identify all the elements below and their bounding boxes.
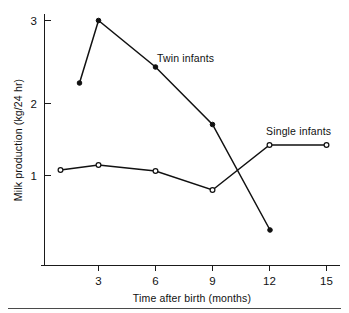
single-infants-line (61, 145, 327, 190)
x-tick-label-12: 12 (263, 275, 276, 287)
single-point-3mo (96, 163, 101, 168)
y-tick-label-2: 2 (31, 98, 37, 110)
y-axis (45, 14, 52, 265)
series-twin-infants: Twin infants (77, 18, 272, 232)
x-axis (41, 266, 340, 272)
y-axis-title: Milk production (kg/24 hr) (12, 79, 24, 201)
twin-point-3mo (96, 18, 101, 23)
twin-point-2mo (77, 81, 82, 86)
y-tick-label-3: 3 (31, 15, 37, 27)
series-single-infants: Single infants (58, 125, 331, 192)
x-tick-label-6: 6 (152, 275, 158, 287)
twin-infants-label: Twin infants (157, 52, 214, 64)
single-point-15mo (324, 143, 329, 148)
line-chart-canvas: 3 2 1 3 6 9 12 15 Milk production (kg/24… (0, 0, 349, 313)
twin-point-6mo (153, 65, 158, 70)
single-point-6mo (153, 169, 158, 174)
twin-point-12mo (268, 228, 273, 233)
x-axis-title: Time after birth (months) (133, 292, 251, 304)
x-tick-label-15: 15 (320, 275, 333, 287)
x-tick-label-9: 9 (209, 275, 215, 287)
y-tick-label-1: 1 (31, 170, 37, 182)
single-infants-label: Single infants (266, 125, 331, 137)
x-tick-label-3: 3 (95, 275, 101, 287)
twin-point-9mo (210, 122, 215, 127)
single-point-9mo (210, 188, 215, 193)
single-point-12mo (267, 143, 272, 148)
chart-figure: 3 2 1 3 6 9 12 15 Milk production (kg/24… (0, 0, 349, 313)
single-point-1mo (58, 168, 63, 173)
